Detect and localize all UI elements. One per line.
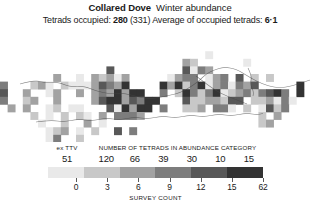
legend-band-count-0: 120 bbox=[92, 152, 121, 165]
legend-band-4 bbox=[191, 167, 227, 178]
legend-category-header: NUMBER OF TETRADS IN ABUNDANCE CATEGORY bbox=[92, 143, 263, 152]
page-title: Collared Dove Winter abundance bbox=[0, 2, 320, 13]
legend-band-count-4: 10 bbox=[206, 152, 235, 165]
legend-band-count-1: 66 bbox=[121, 152, 150, 165]
legend-band-count-5: 15 bbox=[235, 152, 264, 165]
season-label: Winter abundance bbox=[156, 2, 232, 13]
legend-ex-ttv-header: ex TTV bbox=[48, 143, 86, 152]
legend-tick-label-2: 6 bbox=[127, 182, 149, 193]
map-legend: ex TTV NUMBER OF TETRADS IN ABUNDANCE CA… bbox=[0, 143, 320, 208]
average-occupied-value: 6·1 bbox=[265, 15, 278, 25]
legend-band-0 bbox=[48, 167, 84, 178]
tetrads-occupied-value: 280 bbox=[113, 15, 128, 25]
legend-count-row: 51 1206639301015 bbox=[48, 152, 263, 165]
abundance-map-figure: Collared Dove Winter abundance Tetrads o… bbox=[0, 0, 320, 208]
legend-color-bar bbox=[48, 167, 263, 178]
summary-stats: Tetrads occupied: 280 (331) Average of o… bbox=[0, 15, 320, 26]
legend-band-count-3: 30 bbox=[178, 152, 207, 165]
legend-band-2 bbox=[120, 167, 156, 178]
legend-band-3 bbox=[155, 167, 191, 178]
legend-tick-label-1: 3 bbox=[96, 182, 118, 193]
legend-tick-label-5: 15 bbox=[221, 182, 243, 193]
legend-band-1 bbox=[84, 167, 120, 178]
legend-tick-label-0: 0 bbox=[65, 182, 87, 193]
average-occupied-label: Average of occupied tetrads: bbox=[152, 15, 265, 25]
legend-axis-title: SURVEY COUNT bbox=[48, 193, 263, 202]
map-grid-canvas bbox=[0, 36, 320, 142]
figure-header: Collared Dove Winter abundance Tetrads o… bbox=[0, 2, 320, 26]
legend-band-count-2: 39 bbox=[149, 152, 178, 165]
legend-band-5 bbox=[227, 167, 263, 178]
legend-tick-label-3: 9 bbox=[159, 182, 181, 193]
distribution-map bbox=[0, 36, 320, 142]
species-name: Collared Dove bbox=[88, 2, 151, 13]
legend-tick-label-4: 12 bbox=[190, 182, 212, 193]
legend-ex-ttv-count: 51 bbox=[48, 152, 86, 165]
tetrads-occupied-label: Tetrads occupied: bbox=[43, 15, 113, 25]
legend-tick-label-6: 62 bbox=[252, 182, 274, 193]
tetrads-total-value: (331) bbox=[128, 15, 152, 25]
